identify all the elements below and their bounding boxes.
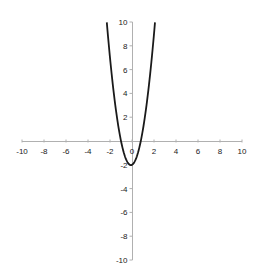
y-tick-label: -6: [120, 208, 128, 217]
y-tick-label: -4: [120, 185, 128, 194]
y-tick-label: 2: [123, 113, 128, 122]
x-tick-label: 2: [152, 147, 157, 156]
x-tick-label: 10: [238, 147, 247, 156]
x-tick-label: -6: [62, 147, 70, 156]
y-tick-label: 10: [119, 18, 128, 27]
x-tick-label: -8: [40, 147, 48, 156]
x-tick-label: 6: [196, 147, 201, 156]
x-tick-label: -2: [106, 147, 114, 156]
y-tick-label: 6: [123, 66, 128, 75]
chart: -10-8-6-4-20246810 -10-8-6-4-2246810: [0, 0, 256, 278]
y-tick-label: -10: [116, 256, 128, 265]
y-tick-label: 8: [123, 42, 128, 51]
x-tick-label: 0: [130, 147, 135, 156]
x-tick-label: -4: [84, 147, 92, 156]
x-tick-label: 8: [218, 147, 223, 156]
y-tick-label: 4: [123, 89, 128, 98]
x-tick-label: -10: [16, 147, 28, 156]
x-tick-label: 4: [174, 147, 179, 156]
y-tick-label: -8: [120, 232, 128, 241]
